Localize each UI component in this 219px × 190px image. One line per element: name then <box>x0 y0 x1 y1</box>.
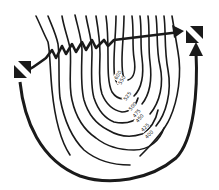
dive-flag-icon-entry <box>14 61 31 78</box>
arrowhead-up-icon <box>189 42 203 56</box>
depth-label: 525 <box>122 90 132 101</box>
contour-map: 600550525500475450425400 <box>0 0 219 190</box>
dive-site-diagram: 600550525500475450425400 <box>0 0 219 190</box>
dive-flag-icon-exit <box>186 26 203 43</box>
depth-labels: 600550525500475450425400 <box>112 69 154 140</box>
arrowhead-icon <box>172 25 184 38</box>
contour-lines <box>36 15 180 165</box>
